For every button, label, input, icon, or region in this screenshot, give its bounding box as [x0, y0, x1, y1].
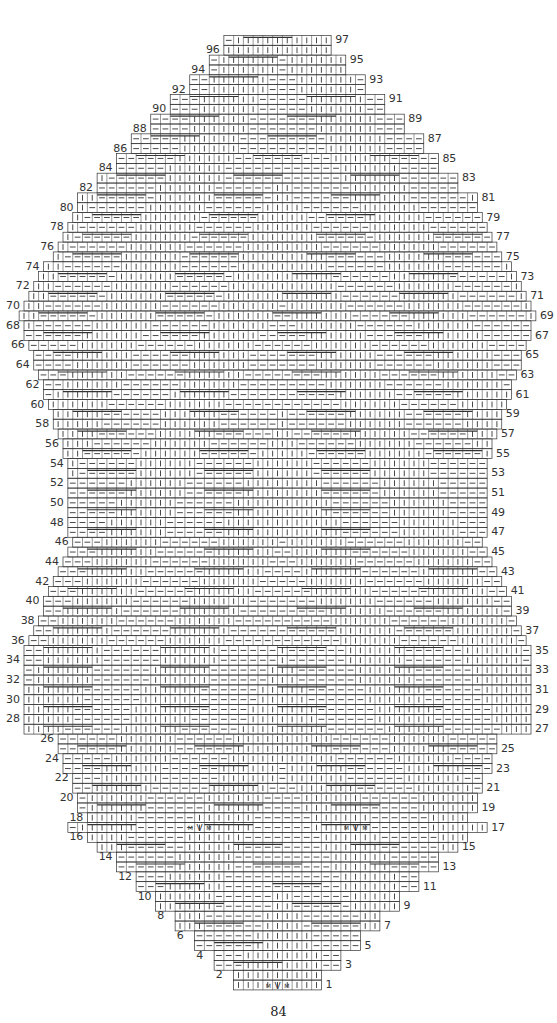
row-number-left: 62	[26, 380, 40, 390]
row-number-left: 6	[177, 931, 184, 941]
chart-row	[24, 331, 531, 341]
chart-row	[117, 154, 439, 164]
row-number-left: 28	[6, 714, 20, 724]
make-one-symbol: M	[206, 824, 211, 831]
chart-row	[24, 646, 531, 656]
chart-row	[78, 193, 478, 203]
row-number-left: 80	[60, 203, 74, 213]
chart-row	[234, 970, 322, 980]
chart-row	[34, 281, 522, 291]
row-number-left: 84	[99, 163, 113, 173]
row-number-left: 82	[79, 183, 93, 193]
chart-row	[68, 518, 487, 528]
row-number-right: 41	[511, 586, 525, 596]
row-number-right: 31	[535, 685, 549, 695]
chart-row	[34, 360, 522, 370]
row-number-left: 58	[35, 419, 49, 429]
row-number-left: 44	[45, 557, 59, 567]
row-number-right: 75	[506, 252, 520, 262]
chart-row	[34, 350, 522, 360]
make-one-symbol: M	[266, 982, 271, 989]
row-number-left: 42	[35, 577, 49, 587]
chart-row	[39, 272, 517, 282]
chart-row	[24, 665, 531, 675]
make-one-symbol: M	[344, 824, 349, 831]
chart-row	[68, 222, 487, 232]
row-number-left: 14	[99, 852, 113, 862]
row-number-right: 53	[491, 468, 505, 478]
row-number-right: 79	[486, 213, 500, 223]
row-number-right: 29	[535, 705, 549, 715]
chart-row	[29, 636, 526, 646]
row-number-left: 50	[50, 498, 64, 508]
chart-row	[209, 55, 346, 65]
chart-row	[68, 478, 487, 488]
chart-row	[97, 173, 458, 183]
row-number-right: 57	[501, 429, 515, 439]
row-number-left: 94	[191, 65, 205, 75]
row-number-right: 87	[428, 134, 442, 144]
row-number-right: 9	[403, 901, 410, 911]
chart-row	[48, 586, 506, 596]
chart-row	[195, 941, 361, 951]
row-number-left: 22	[55, 773, 69, 783]
row-number-right: 35	[535, 646, 549, 656]
row-number-left: 34	[6, 655, 20, 665]
chart-row	[73, 213, 483, 223]
row-number-left: 4	[196, 951, 203, 961]
chart-row	[73, 537, 483, 547]
chart-row	[44, 606, 512, 616]
row-number-right: 43	[501, 567, 515, 577]
row-number-left: 40	[26, 596, 40, 606]
row-number-left: 68	[6, 321, 20, 331]
chart-row	[156, 892, 400, 902]
chart-row	[39, 370, 517, 380]
chart-row	[63, 754, 492, 764]
row-number-left: 48	[50, 518, 64, 528]
row-number-right: 73	[520, 272, 534, 282]
chart-row	[97, 842, 458, 852]
row-number-left: 36	[11, 636, 25, 646]
row-number-left: 38	[21, 616, 35, 626]
chart-row	[44, 390, 512, 400]
chart-row	[63, 557, 492, 567]
chart-row	[24, 714, 531, 724]
chart-row	[117, 852, 439, 862]
chart-row	[29, 340, 526, 350]
row-number-left: 52	[50, 478, 64, 488]
chart-row	[151, 124, 405, 134]
chart-row	[58, 744, 497, 754]
chart-row	[24, 301, 531, 311]
row-number-right: 83	[462, 173, 476, 183]
row-number-left: 30	[6, 695, 20, 705]
decrease-symbol: V	[353, 823, 360, 833]
make-one-symbol: M	[362, 824, 367, 831]
row-number-left: 74	[26, 262, 40, 272]
row-number-left: 54	[50, 459, 64, 469]
chart-row	[68, 459, 487, 469]
chart-row	[68, 823, 487, 833]
row-number-right: 27	[535, 724, 549, 734]
chart-row	[78, 203, 478, 213]
chart-row	[24, 705, 531, 715]
chart-row	[53, 419, 502, 429]
chart-row	[53, 409, 502, 419]
row-number-left: 90	[152, 104, 166, 114]
row-number-left: 12	[118, 872, 132, 882]
row-number-left: 18	[69, 813, 83, 823]
row-number-left: 60	[30, 400, 44, 410]
chart-row	[24, 685, 531, 695]
chart-row	[214, 960, 341, 970]
chart-row	[97, 183, 458, 193]
chart-row	[24, 675, 531, 685]
row-number-left: 56	[45, 439, 59, 449]
chart-row	[87, 813, 467, 823]
row-number-left: 8	[157, 911, 164, 921]
row-number-right: 51	[491, 488, 505, 498]
chart-row	[24, 655, 531, 665]
row-number-left: 16	[69, 832, 83, 842]
row-number-right: 5	[364, 941, 371, 951]
chart-row	[63, 439, 492, 449]
chart-row	[136, 882, 419, 892]
chart-row	[58, 567, 497, 577]
